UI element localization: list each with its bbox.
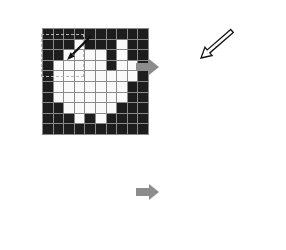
grid-cell bbox=[117, 71, 127, 81]
grid-cell bbox=[96, 61, 106, 71]
grid-cell bbox=[85, 103, 95, 113]
grid-cell bbox=[96, 93, 106, 103]
grid-cell bbox=[117, 50, 127, 60]
pointer-arrow-outlined-icon bbox=[165, 14, 272, 121]
grid-cell bbox=[85, 71, 95, 81]
grid-cell bbox=[54, 82, 64, 92]
grid-cell bbox=[43, 114, 53, 124]
grid-cell bbox=[138, 40, 148, 50]
grid-cell bbox=[117, 82, 127, 92]
grid-cell bbox=[64, 103, 74, 113]
grid-cell bbox=[96, 40, 106, 50]
grid-cell bbox=[75, 103, 85, 113]
grid-cell bbox=[43, 103, 53, 113]
grid-cell bbox=[128, 29, 138, 39]
grid-cell bbox=[96, 50, 106, 60]
grid-cell bbox=[107, 61, 117, 71]
grid-cell bbox=[107, 71, 117, 81]
top-left-panel bbox=[21, 14, 128, 121]
grid-cell bbox=[43, 82, 53, 92]
grid-cell bbox=[107, 93, 117, 103]
grid-cell bbox=[138, 103, 148, 113]
grid-cell bbox=[64, 93, 74, 103]
arrow-body bbox=[136, 188, 149, 196]
grid-cell bbox=[117, 61, 127, 71]
grid-cell bbox=[85, 114, 95, 124]
grid-cell bbox=[96, 124, 106, 134]
grid-cell bbox=[54, 93, 64, 103]
grid-cell bbox=[75, 93, 85, 103]
grid-cell bbox=[128, 93, 138, 103]
transform-arrow-bottom bbox=[136, 184, 159, 200]
transform-arrow-top bbox=[136, 59, 159, 75]
grid-cell bbox=[138, 124, 148, 134]
grid-cell bbox=[64, 124, 74, 134]
grid-cell bbox=[107, 29, 117, 39]
grid-cell bbox=[117, 124, 127, 134]
grid-cell bbox=[96, 82, 106, 92]
grid-cell bbox=[64, 114, 74, 124]
arrow-head bbox=[149, 184, 159, 200]
grid-cell bbox=[96, 103, 106, 113]
top-right-panel bbox=[165, 14, 272, 121]
grid-cell bbox=[138, 29, 148, 39]
grid-cell bbox=[138, 93, 148, 103]
grid-cell bbox=[85, 93, 95, 103]
bottom-right-panel bbox=[165, 139, 272, 246]
grid-cell bbox=[128, 114, 138, 124]
grid-cell bbox=[128, 103, 138, 113]
grid-cell bbox=[117, 93, 127, 103]
grid-cell bbox=[107, 82, 117, 92]
arrow-body bbox=[136, 63, 149, 71]
grid-cell bbox=[43, 93, 53, 103]
grid-cell bbox=[128, 82, 138, 92]
grid-cell bbox=[85, 61, 95, 71]
grid-cell bbox=[138, 82, 148, 92]
grid-cell bbox=[54, 124, 64, 134]
grid-cell bbox=[64, 82, 74, 92]
grid-cell bbox=[138, 114, 148, 124]
grid-cell bbox=[107, 124, 117, 134]
grid-cell bbox=[75, 82, 85, 92]
grid-cell bbox=[117, 29, 127, 39]
grid-cell bbox=[96, 29, 106, 39]
grid-cell bbox=[107, 103, 117, 113]
grid-cell bbox=[117, 40, 127, 50]
grid-cell bbox=[128, 40, 138, 50]
bottom-left-panel bbox=[21, 139, 128, 246]
grid-cell bbox=[117, 114, 127, 124]
grid-cell bbox=[117, 103, 127, 113]
grid-cell bbox=[75, 124, 85, 134]
grid-cell bbox=[54, 114, 64, 124]
grid-cell bbox=[85, 50, 95, 60]
grid-cell bbox=[96, 71, 106, 81]
grid-cell bbox=[128, 124, 138, 134]
grid-cell bbox=[75, 114, 85, 124]
grid-cell bbox=[85, 124, 95, 134]
morphology-figure bbox=[0, 0, 286, 250]
grid-cell bbox=[85, 82, 95, 92]
arrow-head bbox=[149, 59, 159, 75]
grid-cell bbox=[107, 114, 117, 124]
grid-cell bbox=[85, 40, 95, 50]
grid-cell bbox=[107, 50, 117, 60]
grid-cell bbox=[54, 103, 64, 113]
grid-cell bbox=[43, 124, 53, 134]
grid-cell bbox=[96, 114, 106, 124]
grid-cell bbox=[85, 29, 95, 39]
grid-cell bbox=[107, 40, 117, 50]
dashed-selection-box bbox=[41, 34, 84, 77]
